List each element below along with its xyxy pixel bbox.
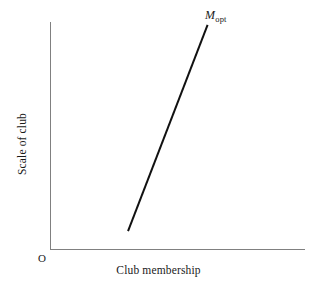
curve-endpoint-label: Mopt [205,9,226,21]
curve-label-subscript: opt [215,14,226,24]
figure-container: O Club membership Scale of club Mopt [0,0,317,288]
x-axis-label: Club membership [0,265,317,277]
origin-label: O [38,253,46,264]
y-axis-label: Scale of club [16,113,28,175]
curve-label-base: M [205,8,215,22]
data-series-line-mopt [128,25,208,231]
chart-canvas [0,0,317,288]
